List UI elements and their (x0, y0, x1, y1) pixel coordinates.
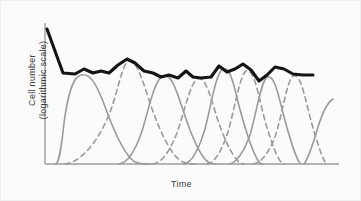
clone-curve-6 (207, 71, 284, 164)
x-axis-label: Time (1, 179, 361, 190)
y-axis-label-line2: (logarithmic scale) (38, 10, 49, 150)
y-axis-label-line1: Cell number (27, 10, 38, 150)
clone-curve-1 (55, 75, 151, 164)
figure-panel: Cell number (logarithmic scale) Time (0, 0, 361, 201)
axis-lines (45, 23, 339, 164)
clone-curve-4 (153, 78, 244, 164)
clone-curve-5 (184, 69, 263, 164)
chart-canvas (1, 1, 361, 201)
y-axis-label: Cell number (logarithmic scale) (27, 10, 49, 150)
total-population-envelope (47, 29, 313, 81)
